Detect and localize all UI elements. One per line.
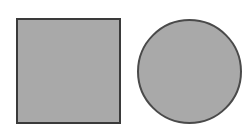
gray-circle [137, 19, 242, 124]
gray-square [16, 18, 121, 124]
